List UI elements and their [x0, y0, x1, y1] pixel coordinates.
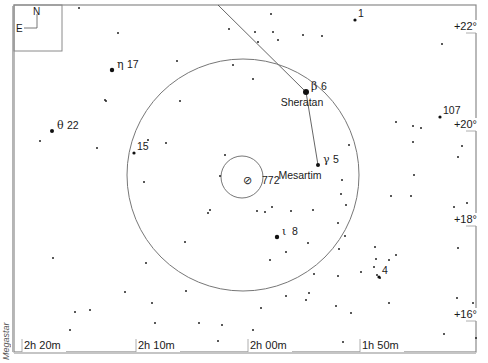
field-star — [388, 259, 390, 261]
field-star — [305, 299, 307, 301]
field-star — [105, 100, 107, 102]
field-star — [472, 302, 474, 304]
field-star — [340, 193, 342, 195]
field-star — [198, 322, 200, 324]
flamsteed-number: 22 — [67, 119, 79, 131]
field-star — [345, 204, 347, 206]
field-star — [338, 248, 340, 250]
field-star — [277, 39, 279, 41]
ra-label: 2h 00m — [250, 339, 287, 351]
field-star — [420, 127, 422, 129]
field-star — [475, 337, 477, 339]
field-star — [413, 174, 415, 176]
field-star — [453, 206, 455, 208]
flamsteed-number: 17 — [127, 58, 139, 70]
field-star — [285, 251, 287, 253]
field-star — [39, 140, 41, 142]
field-star — [151, 302, 153, 304]
field-star — [228, 28, 230, 30]
field-star — [252, 78, 254, 80]
field-star — [78, 7, 80, 9]
field-star — [307, 242, 309, 244]
star-name: Mesartim — [278, 169, 321, 181]
field-star — [179, 100, 181, 102]
field-star — [337, 222, 339, 224]
field-star — [412, 141, 414, 143]
dec-label: +16° — [454, 308, 477, 320]
target-label: 772 — [262, 174, 280, 186]
field-star — [350, 312, 352, 314]
field-star — [337, 275, 339, 277]
field-star — [96, 147, 98, 149]
star-dot — [353, 18, 356, 21]
field-star — [270, 13, 272, 15]
star-number: 1 — [358, 7, 364, 19]
field-star — [313, 273, 315, 275]
field-star — [341, 179, 343, 181]
field-star — [224, 154, 226, 156]
field-star — [254, 31, 256, 33]
field-star — [360, 271, 362, 273]
field-star — [348, 144, 350, 146]
greek-letter: β — [311, 80, 317, 93]
field-star — [217, 340, 219, 342]
field-star — [395, 121, 397, 123]
field-star — [443, 333, 445, 335]
ra-label: 2h 20m — [24, 339, 61, 351]
dec-label: +18° — [454, 213, 477, 225]
flamsteed-number: 5 — [333, 153, 339, 165]
star-dot — [438, 115, 441, 118]
star-dot — [110, 68, 114, 72]
megastar-credit: Megastar — [1, 300, 13, 360]
star-dot — [132, 151, 135, 154]
field-star — [252, 329, 254, 331]
star-dot — [316, 163, 320, 167]
star-name: Sheratan — [281, 96, 324, 108]
field-star — [52, 257, 54, 259]
star-number: 4 — [382, 264, 388, 276]
field-star — [312, 209, 314, 211]
star-chart: N E β6Sheratanγ5Mesartimη17θ22ι8 1107154… — [0, 0, 488, 363]
field-star — [412, 125, 414, 127]
field-star — [207, 212, 209, 214]
field-star — [154, 322, 156, 324]
compass-east-label: E — [16, 23, 23, 34]
field-star — [184, 241, 186, 243]
field-star — [308, 292, 310, 294]
star-number: 107 — [443, 104, 461, 116]
field-star — [456, 297, 458, 299]
greek-letter: η — [117, 58, 124, 71]
field-star — [461, 145, 463, 147]
field-star — [302, 34, 304, 36]
field-star — [441, 43, 443, 45]
field-star — [143, 181, 145, 183]
field-star — [457, 247, 459, 249]
target-object: ⊘772 — [243, 174, 280, 186]
field-star — [457, 156, 459, 158]
field-star — [260, 307, 262, 309]
field-star — [373, 266, 375, 268]
field-star — [466, 202, 468, 204]
field-star — [342, 341, 344, 343]
field-star — [257, 41, 259, 43]
field-star — [232, 64, 234, 66]
field-star — [74, 311, 76, 313]
field-star — [344, 235, 346, 237]
field-star — [209, 209, 211, 211]
flamsteed-number: 8 — [292, 225, 298, 237]
greek-letter: γ — [323, 153, 330, 166]
greek-letter: θ — [57, 119, 64, 132]
field-star — [390, 195, 392, 197]
field-star — [272, 31, 274, 33]
field-star — [264, 211, 266, 213]
field-star — [374, 246, 376, 248]
compass-north-label: N — [33, 6, 40, 17]
star-dot — [377, 275, 380, 278]
star-dot — [50, 129, 54, 133]
ra-label: 1h 50m — [362, 339, 399, 351]
field-star — [124, 291, 126, 293]
field-star — [117, 32, 119, 34]
field-star — [290, 210, 292, 212]
field-star — [256, 210, 258, 212]
galaxy-symbol-icon: ⊘ — [243, 174, 252, 186]
